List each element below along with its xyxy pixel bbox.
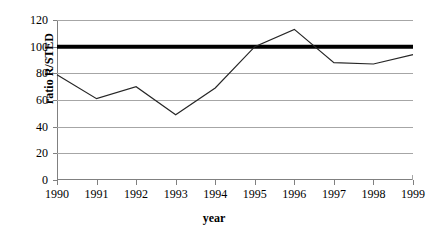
y-axis-tick-label: 0	[0, 174, 48, 186]
x-axis-tick-label: 1993	[154, 188, 198, 201]
y-axis-tick-label: 80	[0, 67, 48, 79]
x-axis-tick-label: 1994	[193, 188, 237, 201]
x-axis-tick-label: 1990	[35, 188, 79, 201]
y-axis-tick-label: 120	[0, 14, 48, 26]
x-axis-tick-labels: 1990199119921993199419951996199719981999	[57, 181, 413, 207]
y-axis-tick-label: 40	[0, 121, 48, 133]
x-axis-tick-label: 1991	[75, 188, 119, 201]
x-axis-tick-label: 1999	[391, 188, 428, 201]
y-axis-tick-label: 100	[0, 41, 48, 53]
y-axis-tick-label: 20	[0, 147, 48, 159]
x-axis-tick-label: 1992	[114, 188, 158, 201]
x-axis-tick-label: 1997	[312, 188, 356, 201]
x-axis-tick-label: 1996	[272, 188, 316, 201]
x-axis-title: year	[0, 212, 428, 225]
x-axis-tick-label: 1995	[233, 188, 277, 201]
x-axis-tick-label: 1998	[351, 188, 395, 201]
chart-container: ratio R/STED 020406080100120 19901991199…	[0, 0, 428, 237]
y-axis-tick-label: 60	[0, 94, 48, 106]
